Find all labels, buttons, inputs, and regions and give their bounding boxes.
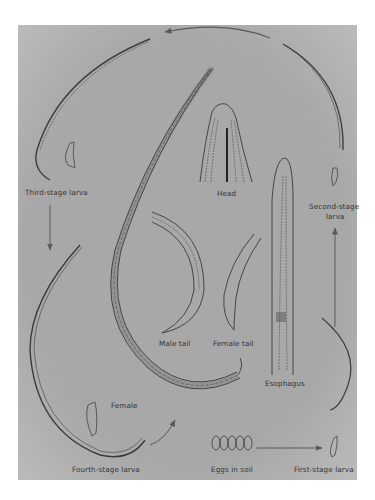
label-third-stage-larva: Third-stage larva: [25, 188, 88, 197]
label-female: Female: [111, 401, 138, 410]
label-second-stage-larva-2: larva: [326, 212, 345, 221]
label-female-tail: Female tail: [213, 339, 254, 348]
label-second-stage-larva-1: Second-stage: [309, 202, 359, 211]
label-first-stage-larva: First-stage larva: [294, 465, 354, 474]
label-eggs-in-soil: Eggs in soil: [211, 465, 253, 474]
label-esophagus: Esophagus: [265, 379, 305, 388]
label-head: Head: [217, 189, 236, 198]
label-male-tail: Male tail: [159, 339, 190, 348]
label-fourth-stage-larva: Fourth-stage larva: [72, 465, 140, 474]
nematode-illustration: [0, 0, 375, 500]
